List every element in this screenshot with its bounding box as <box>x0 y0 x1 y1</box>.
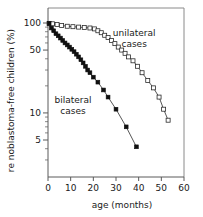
marker-1-21 <box>102 88 106 92</box>
marker-0-2 <box>55 23 59 27</box>
marker-0-3 <box>60 23 64 27</box>
data-series-layer <box>47 21 170 148</box>
marker-0-27 <box>166 118 170 122</box>
marker-0-21 <box>136 64 140 68</box>
x-ticklabel-50: 50 <box>156 183 168 193</box>
marker-1-24 <box>124 125 128 129</box>
marker-0-22 <box>140 71 144 75</box>
marker-0-19 <box>126 55 130 59</box>
series-label-1-line1: cases <box>60 106 86 116</box>
chart-canvas: 10050105 0102030405060 unilateralcasesbi… <box>0 0 203 217</box>
marker-1-23 <box>114 107 118 111</box>
y-axis-tick-labels: 10050105 <box>24 18 41 145</box>
x-axis-tick-labels: 0102030405060 <box>45 183 190 193</box>
marker-1-16 <box>84 64 88 68</box>
series-label-0-line0: unilateral <box>113 28 156 38</box>
marker-1-0 <box>47 21 51 25</box>
marker-0-26 <box>162 107 166 111</box>
x-ticklabel-0: 0 <box>45 183 51 193</box>
marker-0-4 <box>65 24 69 28</box>
marker-0-6 <box>77 25 81 29</box>
marker-1-19 <box>91 75 95 79</box>
x-ticklabel-40: 40 <box>133 183 145 193</box>
marker-0-24 <box>151 86 155 90</box>
marker-0-20 <box>131 59 135 63</box>
marker-0-23 <box>146 78 150 82</box>
marker-1-18 <box>88 71 92 75</box>
marker-1-25 <box>135 145 139 149</box>
y-ticklabel-10: 10 <box>30 108 42 118</box>
x-ticklabel-10: 10 <box>65 183 77 193</box>
marker-0-8 <box>88 26 92 30</box>
marker-0-25 <box>157 95 161 99</box>
series-label-1-line0: bilateral <box>54 95 91 105</box>
y-axis-title: re noblastoma-free children (%) <box>6 29 16 172</box>
series-label-0-line1: cases <box>121 39 147 49</box>
y-axis-major-ticks <box>43 23 48 140</box>
x-ticklabel-20: 20 <box>88 183 100 193</box>
marker-0-7 <box>82 26 86 30</box>
marker-1-22 <box>106 95 110 99</box>
marker-1-20 <box>96 80 100 84</box>
x-ticklabel-30: 30 <box>110 183 122 193</box>
marker-0-5 <box>71 25 75 29</box>
x-axis-major-ticks <box>48 177 184 181</box>
x-ticklabel-60: 60 <box>178 183 190 193</box>
y-ticklabel-5: 5 <box>35 135 41 145</box>
y-ticklabel-100: 100 <box>24 18 41 28</box>
x-axis-title: age (months) <box>92 200 153 210</box>
svg-text:re noblastoma-free children (: re noblastoma-free children (%) <box>6 29 16 172</box>
y-ticklabel-50: 50 <box>30 45 42 55</box>
retinoblastoma-survival-chart: 10050105 0102030405060 unilateralcasesbi… <box>0 0 203 217</box>
